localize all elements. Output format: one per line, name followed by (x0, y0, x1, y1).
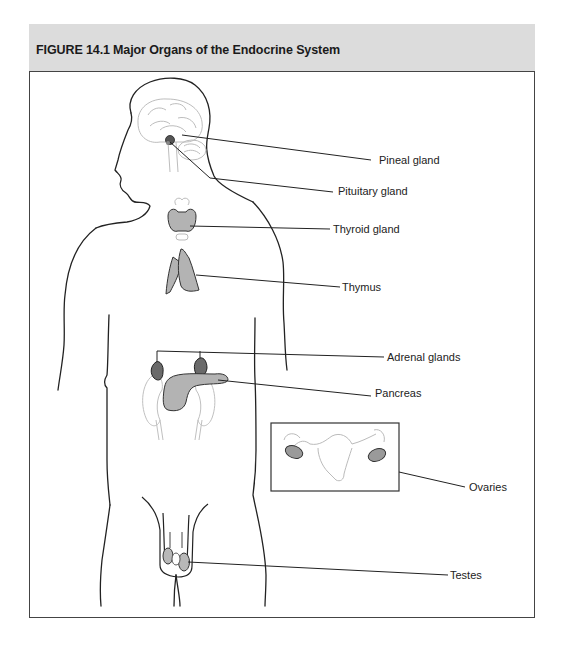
label-ovaries: Ovaries (469, 481, 507, 493)
label-adrenal-glands: Adrenal glands (387, 351, 460, 363)
brain-icon (138, 99, 206, 172)
label-pancreas: Pancreas (375, 387, 421, 399)
label-pituitary-gland: Pituitary gland (338, 185, 408, 197)
ovaries-inset-icon (271, 423, 399, 491)
pancreas-icon (163, 374, 228, 411)
label-testes: Testes (450, 569, 482, 581)
thymus-icon (166, 249, 199, 294)
thyroid-icon (168, 198, 196, 240)
testes-icon (142, 497, 208, 577)
body-outline-icon (58, 78, 287, 606)
label-pineal-gland: Pineal gland (379, 154, 440, 166)
pituitary-icon (166, 136, 175, 146)
endocrine-diagram (0, 0, 562, 656)
label-thyroid-gland: Thyroid gland (333, 223, 400, 235)
label-thymus: Thymus (342, 281, 381, 293)
